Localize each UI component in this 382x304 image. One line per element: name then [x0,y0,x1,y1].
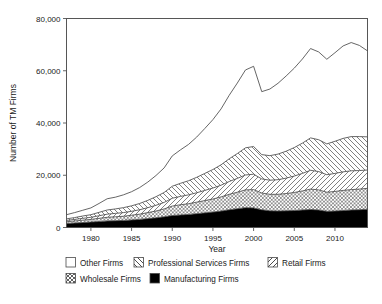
legend-label: Other Firms [80,259,123,268]
x-tick-label: 1990 [163,234,181,243]
legend-swatch-white-empty [66,258,76,268]
chart-figure: 020,00040,00060,00080,000 19801985199019… [0,0,382,304]
x-axis-title: Year [208,244,225,254]
y-axis-ticks: 020,00040,00060,00080,000 [36,15,66,233]
legend-label: Professional Services Firms [148,259,249,268]
y-tick-label: 60,000 [36,67,61,76]
legend-swatch-crosshatch-x [66,274,76,284]
stacked-areas [67,43,368,228]
x-tick-label: 1985 [123,234,141,243]
y-tick-label: 20,000 [36,171,61,180]
legend-label: Wholesale Firms [80,275,141,284]
y-tick-label: 40,000 [36,119,61,128]
y-tick-label: 80,000 [36,15,61,24]
legend-label: Manufacturing Firms [164,275,239,284]
x-tick-label: 1980 [82,234,100,243]
y-axis-title: Number of TM Firms [8,84,18,162]
legend-swatch-solid-black [150,274,160,284]
legend-label: Retail Firms [282,259,326,268]
stacked-area-chart: 020,00040,00060,00080,000 19801985199019… [0,0,382,304]
legend-swatch-diagonal-back [134,258,144,268]
x-tick-label: 2005 [285,234,303,243]
legend-swatch-diagonal-forward [268,258,278,268]
legend-item-wholesale-firms[interactable]: Wholesale Firms [66,274,141,285]
x-tick-label: 2000 [245,234,263,243]
chart-legend: Other FirmsProfessional Services FirmsRe… [66,258,326,285]
x-tick-label: 1995 [204,234,222,243]
y-tick-label: 0 [56,224,61,233]
legend-item-retail-firms[interactable]: Retail Firms [268,258,326,269]
x-axis-ticks: 1980198519901995200020052010 [82,228,344,243]
legend-item-manufacturing-firms[interactable]: Manufacturing Firms [150,274,239,285]
legend-item-professional-services-firms[interactable]: Professional Services Firms [134,258,249,269]
x-tick-label: 2010 [326,234,344,243]
legend-item-other-firms[interactable]: Other Firms [66,258,123,269]
